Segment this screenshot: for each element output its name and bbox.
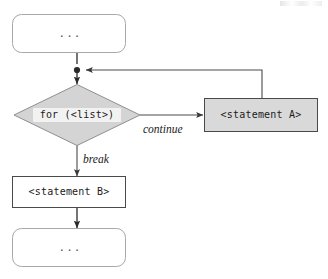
for-condition-label: for (<list>) [40, 109, 115, 120]
node-for-condition: for (<list>) [14, 85, 140, 146]
edge-statement-a-loopback [86, 70, 262, 98]
statement-b-label: <statement B> [29, 186, 110, 197]
flowchart-canvas: ... for (<list>) <statement A> <statemen… [0, 0, 328, 279]
top-context-label: ... [59, 27, 82, 40]
statement-a-label: <statement A> [221, 109, 302, 120]
node-statement-b: <statement B> [13, 177, 126, 208]
edge-label-continue: continue [143, 123, 183, 135]
edge-label-break: break [83, 153, 110, 165]
bottom-context-label: ... [59, 241, 82, 254]
node-bottom-context: ... [13, 229, 126, 267]
node-top-context: ... [13, 15, 126, 53]
node-statement-a: <statement A> [205, 99, 318, 132]
loop-junction-dot [74, 67, 80, 73]
flowchart-diagram: ... for (<list>) <statement A> <statemen… [0, 0, 328, 279]
